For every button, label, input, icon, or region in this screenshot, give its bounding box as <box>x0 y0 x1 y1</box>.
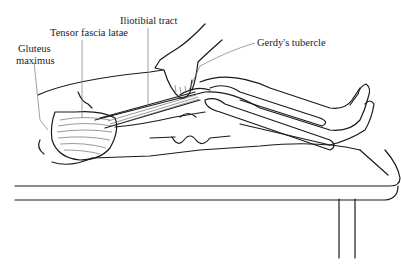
muscle-drawing <box>39 92 200 160</box>
illustration-drawing <box>0 0 401 272</box>
label-gluteus-maximus-line1: Gluteus <box>18 43 51 55</box>
table-drawing <box>15 150 400 258</box>
label-tensor-fascia-latae: Tensor fascia latae <box>50 27 128 39</box>
label-gluteus-maximus-line2: maximus <box>16 55 55 67</box>
leader-lines <box>34 28 255 130</box>
label-iliotibial-tract: Iliotibial tract <box>120 15 177 27</box>
anatomy-figure: Iliotibial tract Tensor fascia latae Glu… <box>0 0 401 272</box>
label-gerdys-tubercle: Gerdy's tubercle <box>257 37 326 49</box>
